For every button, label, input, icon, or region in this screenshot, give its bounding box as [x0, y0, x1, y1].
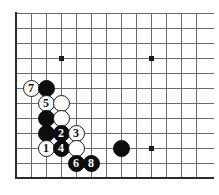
- stone-black[interactable]: [38, 110, 55, 127]
- stone-black-2[interactable]: 2: [53, 125, 70, 142]
- star-point: [59, 56, 64, 61]
- board-grid: [0, 0, 219, 195]
- stone-white-1[interactable]: 1: [38, 140, 55, 157]
- stone-white-7[interactable]: 7: [23, 80, 40, 97]
- stone-white[interactable]: [53, 110, 70, 127]
- stone-black[interactable]: [38, 125, 55, 142]
- stone-white-5[interactable]: 5: [38, 95, 55, 112]
- stone-black[interactable]: [113, 140, 130, 157]
- stone-label: 3: [73, 127, 79, 139]
- stone-label: 2: [58, 127, 64, 139]
- stone-white[interactable]: [53, 95, 70, 112]
- star-point: [149, 56, 154, 61]
- stone-label: 1: [43, 142, 49, 154]
- go-board-diagram: 75231468: [0, 0, 219, 195]
- stone-label: 4: [58, 142, 64, 154]
- stone-label: 5: [43, 97, 49, 109]
- stone-black-6[interactable]: 6: [68, 155, 85, 172]
- stone-black-8[interactable]: 8: [83, 155, 100, 172]
- stone-label: 7: [28, 82, 34, 94]
- stone-label: 6: [73, 157, 79, 169]
- stone-white-3[interactable]: 3: [68, 125, 85, 142]
- stone-white[interactable]: [68, 140, 85, 157]
- stone-label: 8: [88, 157, 94, 169]
- star-point: [149, 146, 154, 151]
- stone-black-4[interactable]: 4: [53, 140, 70, 157]
- stone-black[interactable]: [38, 80, 55, 97]
